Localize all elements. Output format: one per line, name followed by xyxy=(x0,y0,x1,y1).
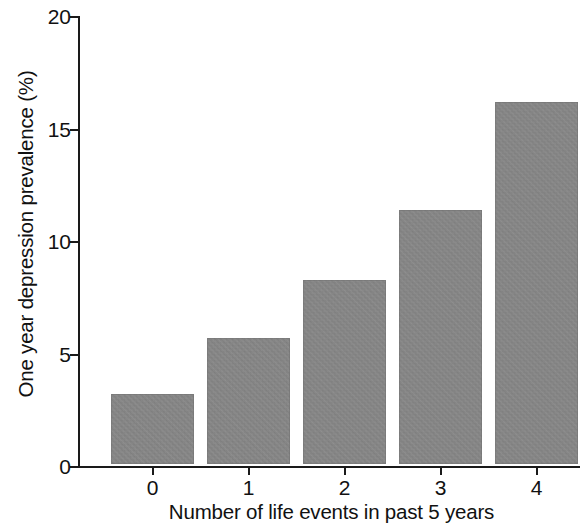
y-tick-label: 5 xyxy=(59,343,71,364)
x-tick-mark xyxy=(248,468,250,475)
bar xyxy=(207,338,290,464)
bar xyxy=(399,210,482,464)
x-tick-label: 2 xyxy=(339,477,351,498)
bar xyxy=(303,280,386,465)
y-tick-mark xyxy=(70,16,78,18)
y-tick-mark xyxy=(70,354,78,356)
x-tick-label: 1 xyxy=(243,477,255,498)
y-tick-label: 15 xyxy=(48,118,71,139)
y-axis-title: One year depression prevalence (%) xyxy=(14,19,38,449)
x-tick-mark xyxy=(152,468,154,475)
y-axis-line xyxy=(78,16,80,467)
x-tick-mark xyxy=(344,468,346,475)
bar xyxy=(111,394,194,464)
y-tick-label: 0 xyxy=(59,456,71,477)
y-tick-mark xyxy=(70,129,78,131)
x-tick-label: 0 xyxy=(147,477,159,498)
x-axis-title: Number of life events in past 5 years xyxy=(78,500,585,524)
y-tick-mark xyxy=(70,466,78,468)
y-tick-label: 10 xyxy=(48,231,71,252)
x-tick-mark xyxy=(440,468,442,475)
y-tick-label: 20 xyxy=(48,6,71,27)
bar xyxy=(495,102,578,464)
plot-area: 20 15 10 5 0 0 1 2 3 xyxy=(78,16,580,466)
x-tick-mark xyxy=(536,468,538,475)
x-tick-label: 3 xyxy=(435,477,447,498)
x-tick-label: 4 xyxy=(531,477,543,498)
bar-chart-figure: One year depression prevalence (%) 20 15… xyxy=(0,0,585,526)
y-tick-mark xyxy=(70,241,78,243)
